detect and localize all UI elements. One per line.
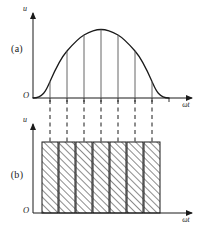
pulse-bar	[76, 142, 92, 213]
pulse-bar	[42, 142, 58, 213]
panel-b-y-axis-label: u	[23, 115, 27, 124]
panel-a: u ωt O	[11, 4, 192, 109]
panel-a-x-ticks	[50, 98, 169, 102]
pulse-bar	[59, 142, 75, 213]
dashed-alignment-lines	[50, 100, 152, 142]
panel-b-x-axis-label: ωt	[182, 215, 190, 224]
panel-a-y-axis-label: u	[23, 4, 27, 13]
panel-b-label: (b)	[11, 169, 24, 181]
panel-a-label: (a)	[11, 43, 23, 55]
waveform-figure: u ωt O	[0, 0, 205, 239]
panel-a-origin-label: O	[23, 90, 29, 100]
panel-b-origin-label: O	[23, 205, 29, 215]
pulse-bar	[110, 142, 126, 213]
pulse-bar	[93, 142, 109, 213]
pulse-bar	[127, 142, 143, 213]
panel-a-sample-ordinates	[50, 30, 152, 99]
figure-root: u ωt O	[0, 0, 205, 239]
panel-a-x-axis-label: ωt	[182, 100, 190, 109]
pulse-bar	[144, 142, 160, 213]
panel-b-pulse-bars	[42, 142, 160, 213]
